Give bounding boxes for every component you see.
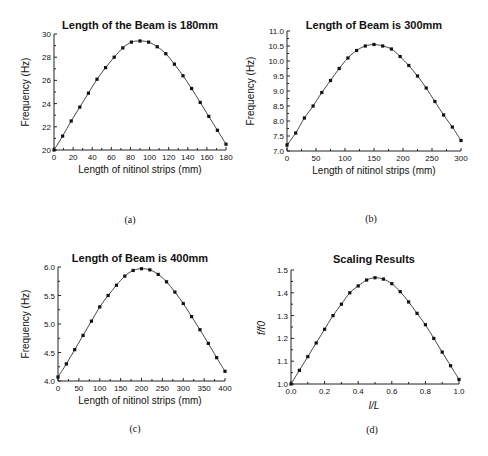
y-tick-label: 11.0	[269, 27, 285, 36]
x-axis-label: Length of nitinol strips (mm)	[78, 395, 201, 406]
x-axis-label: l/L	[369, 400, 380, 411]
x-tick-label: 100	[338, 154, 352, 163]
x-tick-label: 120	[162, 153, 176, 162]
data-line	[54, 41, 226, 150]
y-tick-label: 1.2	[277, 334, 289, 343]
x-tick-label: 300	[454, 154, 468, 163]
data-point-marker	[123, 275, 126, 278]
data-point-marker	[298, 369, 301, 372]
x-tick-label: 60	[107, 153, 116, 162]
data-point-marker	[70, 119, 73, 122]
y-tick-label: 7.0	[273, 147, 285, 156]
chart-title: Length of Beam is 300mm	[306, 19, 443, 31]
data-point-marker	[381, 44, 384, 47]
data-point-marker	[107, 294, 110, 297]
data-point-marker	[207, 342, 210, 345]
y-tick-label: 7.5	[273, 132, 285, 141]
data-point-marker	[190, 87, 193, 90]
x-tick-label: 350	[197, 384, 211, 393]
x-tick-label: 50	[74, 384, 83, 393]
data-point-marker	[95, 78, 98, 81]
y-tick-label: 1.3	[277, 312, 289, 321]
panel-caption: (a)	[124, 214, 135, 226]
data-point-marker	[215, 356, 218, 359]
x-tick-label: 0.2	[319, 387, 331, 396]
y-tick-label: 6.0	[44, 263, 56, 272]
chart-panel-b: Length of Beam is 300mm Frequency (Hz) L…	[245, 19, 468, 225]
y-axis-label: Frequency (Hz)	[245, 57, 256, 126]
y-tick-label: 4.0	[44, 377, 56, 386]
x-tick-label: 140	[181, 153, 195, 162]
data-point-marker	[303, 116, 306, 119]
y-tick-label: 30	[42, 30, 51, 39]
y-tick-label: 28	[42, 53, 51, 62]
x-tick-label: 20	[69, 153, 78, 162]
data-point-marker	[312, 104, 315, 107]
data-point-marker	[121, 46, 124, 49]
data-point-marker	[289, 382, 292, 385]
y-tick-label: 1.5	[277, 266, 289, 275]
y-axis-label: Frequency (Hz)	[20, 58, 31, 127]
data-point-marker	[165, 280, 168, 283]
data-point-marker	[81, 334, 84, 337]
data-point-marker	[355, 49, 358, 52]
y-tick-label: 1.1	[277, 357, 289, 366]
data-point-marker	[338, 67, 341, 70]
y-tick-label: 8.0	[273, 117, 285, 126]
data-point-marker	[98, 305, 101, 308]
data-point-marker	[415, 312, 418, 315]
x-tick-label: 150	[114, 384, 128, 393]
data-point-marker	[399, 290, 402, 293]
data-point-marker	[207, 115, 210, 118]
data-point-marker	[390, 47, 393, 50]
data-point-marker	[441, 350, 444, 353]
data-point-marker	[65, 362, 68, 365]
data-line	[287, 45, 461, 146]
data-point-marker	[449, 364, 452, 367]
y-tick-label: 24	[42, 100, 51, 109]
x-tick-label: 180	[219, 153, 233, 162]
y-axis-label: Frequency (Hz)	[20, 290, 31, 359]
data-point-marker	[433, 100, 436, 103]
x-tick-label: 0.8	[420, 387, 432, 396]
data-point-marker	[348, 291, 351, 294]
data-point-marker	[216, 129, 219, 132]
data-point-marker	[315, 341, 318, 344]
data-point-marker	[424, 323, 427, 326]
data-point-marker	[320, 91, 323, 94]
data-point-marker	[173, 290, 176, 293]
data-point-marker	[132, 269, 135, 272]
data-point-marker	[340, 303, 343, 306]
x-tick-label: 0.0	[285, 387, 297, 396]
x-tick-label: 0.4	[353, 387, 365, 396]
data-point-marker	[87, 92, 90, 95]
data-point-marker	[382, 278, 385, 281]
data-point-marker	[78, 105, 81, 108]
y-tick-label: 4.5	[44, 349, 56, 358]
x-tick-label: 40	[88, 153, 97, 162]
data-point-marker	[224, 143, 227, 146]
data-point-marker	[182, 302, 185, 305]
chart-title: Scaling Results	[333, 253, 415, 265]
data-point-marker	[432, 337, 435, 340]
y-tick-label: 22	[42, 123, 51, 132]
data-point-marker	[198, 328, 201, 331]
y-tick-label: 8.5	[273, 102, 285, 111]
data-point-marker	[442, 113, 445, 116]
data-point-marker	[157, 273, 160, 276]
data-point-marker	[285, 143, 288, 146]
data-point-marker	[416, 74, 419, 77]
data-point-marker	[306, 355, 309, 358]
x-tick-label: 100	[93, 384, 107, 393]
data-point-marker	[425, 86, 428, 89]
data-point-marker	[138, 39, 141, 42]
data-point-marker	[457, 378, 460, 381]
data-point-marker	[104, 66, 107, 69]
y-tick-label: 10.0	[268, 57, 284, 66]
x-tick-label: 160	[200, 153, 214, 162]
data-point-marker	[113, 56, 116, 59]
data-point-marker	[407, 64, 410, 67]
data-point-marker	[61, 134, 64, 137]
x-tick-label: 300	[177, 384, 191, 393]
data-point-marker	[323, 328, 326, 331]
